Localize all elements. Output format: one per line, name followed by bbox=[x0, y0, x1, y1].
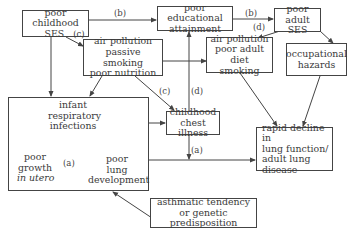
edge-label-b: (b) bbox=[114, 8, 126, 18]
edge-label-d: (d) bbox=[253, 22, 265, 32]
node-text: occupational bbox=[286, 49, 347, 60]
node-childhood-chest-illness: childhood chest illness bbox=[166, 111, 220, 135]
edge-label-d: (d) bbox=[191, 86, 203, 96]
node-text: poor bbox=[88, 154, 146, 165]
node-adult-exposures: air pollution poor adult diet smoking bbox=[206, 37, 273, 73]
node-text: adult lung disease bbox=[262, 154, 332, 175]
node-text: poor adult diet bbox=[207, 44, 272, 65]
node-poor-growth: poor growth in utero bbox=[17, 152, 53, 184]
node-text: smoking bbox=[219, 66, 259, 77]
life-course-diagram: poor childhood SES (c) poor educational … bbox=[0, 0, 349, 235]
node-text: chest illness bbox=[167, 118, 219, 139]
node-text: or genetic predisposition bbox=[151, 208, 256, 229]
node-text: SES (c) bbox=[26, 29, 84, 40]
node-text: passive smoking bbox=[84, 47, 162, 68]
edge-label-b: (b) bbox=[245, 8, 257, 18]
node-text: development bbox=[88, 175, 146, 186]
node-rapid-decline: rapid decline in lung function/ adult lu… bbox=[256, 127, 333, 171]
node-text: SES bbox=[288, 25, 308, 36]
node-text: rapid decline in bbox=[262, 123, 332, 144]
node-text: poor educational bbox=[158, 3, 232, 24]
node-text: infections bbox=[48, 121, 98, 132]
node-childhood-exposures: air pollution passive smoking poor nutri… bbox=[83, 39, 163, 76]
node-text: in utero bbox=[17, 173, 53, 184]
node-poor-lung-development: poor lung development bbox=[88, 154, 146, 186]
node-occupational-hazards: occupational hazards bbox=[286, 43, 347, 76]
edge-label-a: (a) bbox=[63, 158, 75, 168]
edge-label-c: (c) bbox=[159, 86, 170, 96]
node-poor-childhood-ses: poor childhood SES (c) bbox=[22, 10, 89, 37]
node-asthmatic-tendency: asthmatic tendency or genetic predisposi… bbox=[150, 198, 257, 228]
edge-label-a: (a) bbox=[191, 145, 203, 155]
node-text: poor bbox=[17, 152, 53, 163]
node-text: poor adult bbox=[275, 4, 320, 25]
node-poor-adult-ses: poor adult SES bbox=[274, 8, 321, 32]
node-infant-respiratory-infections: infant respiratory infections bbox=[48, 100, 98, 132]
node-text: hazards bbox=[298, 60, 335, 71]
edge-label: (c) bbox=[73, 29, 84, 39]
node-poor-educational-attainment: poor educational attainment bbox=[157, 6, 233, 31]
node-text: poor nutrition bbox=[90, 68, 157, 79]
node-text: SES bbox=[44, 28, 64, 39]
node-text: poor childhood bbox=[23, 8, 88, 29]
node-text: infant bbox=[48, 100, 98, 111]
